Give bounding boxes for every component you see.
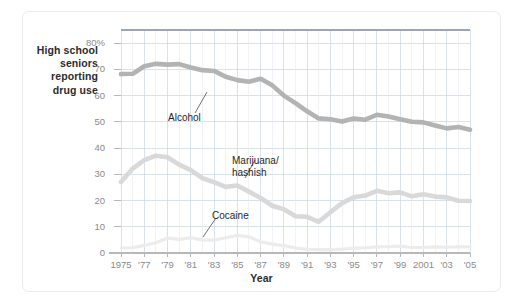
y-tick-label: 80%	[65, 37, 105, 48]
y-tick-label: 10	[73, 221, 105, 232]
series-label-alcohol: Alcohol	[168, 112, 201, 124]
y-tick-label: 40	[73, 142, 105, 153]
chart-figure: High schoolseniorsreportingdrug use Year…	[0, 0, 523, 304]
x-tick-label: '05	[450, 259, 490, 270]
series-label-marijuana: Marijuana/hashish	[232, 155, 279, 178]
y-tick-label: 60	[73, 90, 105, 101]
x-axis-title: Year	[0, 272, 523, 284]
y-tick-label: 50	[73, 116, 105, 127]
y-tick-label: 30	[73, 168, 105, 179]
series-label-cocaine: Cocaine	[212, 210, 249, 222]
y-tick-label: 0	[73, 247, 105, 258]
y-tick-label: 20	[73, 195, 105, 206]
y-tick-label: 70	[73, 63, 105, 74]
